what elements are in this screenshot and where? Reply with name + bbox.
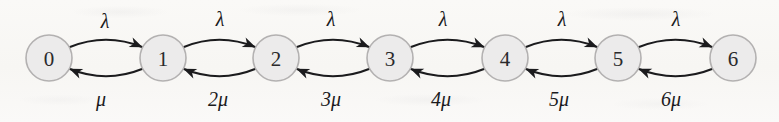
service-rate-label: 6μ <box>661 88 681 111</box>
state-node-3[interactable]: 3 <box>367 35 413 81</box>
state-node-5[interactable]: 5 <box>595 35 641 81</box>
state-node-label: 1 <box>158 47 169 71</box>
state-node-label: 5 <box>613 47 624 71</box>
state-node-4[interactable]: 4 <box>482 35 528 81</box>
arrival-edge-4-to-5: λ <box>525 8 599 52</box>
service-edge-3-to-2: 3μ <box>294 64 369 111</box>
arrival-rate-label: λ <box>100 10 110 32</box>
state-node-label: 6 <box>728 47 739 71</box>
service-rate-label: 4μ <box>431 88 451 111</box>
arrival-edge-3-to-4: λ <box>410 8 486 52</box>
service-edge-1-to-0: μ <box>67 64 142 111</box>
state-node-label: 3 <box>385 47 396 71</box>
arrival-rate-label: λ <box>326 8 336 30</box>
arrival-rate-label: λ <box>215 8 225 30</box>
state-node-label: 2 <box>271 47 282 71</box>
service-rate-label: 3μ <box>320 88 341 111</box>
state-node-0[interactable]: 0 <box>26 35 72 81</box>
arrival-edge-5-to-6: λ <box>638 8 714 52</box>
service-edge-4-to-3: 4μ <box>408 64 484 111</box>
service-rate-label: 5μ <box>549 88 569 111</box>
arrival-edge-2-to-3: λ <box>296 8 371 52</box>
state-node-6[interactable]: 6 <box>710 35 756 81</box>
arrival-rate-label: λ <box>671 8 681 30</box>
arrival-rate-label: λ <box>557 8 567 30</box>
state-node-1[interactable]: 1 <box>140 35 186 81</box>
arrival-edge-0-to-1: λ <box>69 10 144 52</box>
state-node-2[interactable]: 2 <box>253 35 299 81</box>
service-edge-5-to-4: 5μ <box>523 64 597 111</box>
state-node-label: 4 <box>500 47 511 71</box>
state-node-label: 0 <box>44 47 55 71</box>
state-transition-diagram: λλλλλλμ2μ3μ4μ5μ6μ0123456 <box>0 0 779 122</box>
service-edge-6-to-5: 6μ <box>636 64 712 111</box>
markov-chain-diagram-canvas: λλλλλλμ2μ3μ4μ5μ6μ0123456 <box>0 0 779 122</box>
arrival-edge-1-to-2: λ <box>183 8 257 52</box>
service-rate-label: μ <box>95 88 106 111</box>
arrival-rate-label: λ <box>438 8 448 30</box>
service-edge-2-to-1: 2μ <box>181 64 255 111</box>
service-rate-label: 2μ <box>208 88 228 111</box>
